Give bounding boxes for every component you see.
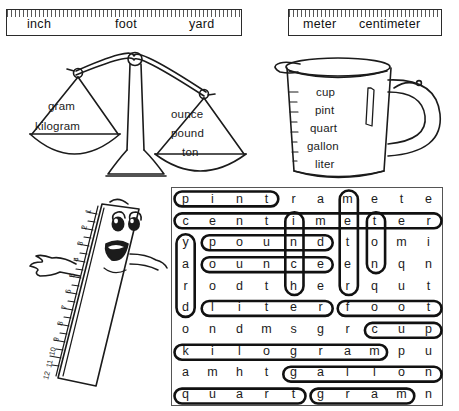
grid-cell-r3-c3[interactable]: n	[253, 253, 280, 275]
grid-cell-r2-c2[interactable]: o	[226, 231, 253, 253]
grid-cell-r5-c1[interactable]: l	[199, 297, 226, 319]
grid-cell-r7-c5[interactable]: r	[307, 340, 334, 362]
grid-cell-r5-c4[interactable]: e	[280, 297, 307, 319]
grid-cell-r8-c4[interactable]: g	[280, 362, 307, 384]
grid-cell-r0-c2[interactable]: n	[226, 188, 253, 210]
grid-cell-r3-c8[interactable]: q	[388, 253, 415, 275]
grid-cell-r6-c6[interactable]: r	[334, 318, 361, 340]
grid-cell-r6-c5[interactable]: g	[307, 318, 334, 340]
grid-cell-r8-c3[interactable]: t	[253, 362, 280, 384]
grid-cell-r6-c3[interactable]: m	[253, 318, 280, 340]
grid-cell-r6-c8[interactable]: u	[388, 318, 415, 340]
grid-cell-r1-c9[interactable]: r	[415, 210, 442, 232]
grid-cell-r1-c5[interactable]: m	[307, 210, 334, 232]
grid-cell-r8-c2[interactable]: h	[226, 362, 253, 384]
grid-cell-r3-c4[interactable]: c	[280, 253, 307, 275]
grid-cell-r4-c8[interactable]: u	[388, 275, 415, 297]
grid-cell-r8-c5[interactable]: a	[307, 362, 334, 384]
grid-cell-r9-c5[interactable]: g	[307, 383, 334, 405]
grid-cell-r9-c6[interactable]: r	[334, 383, 361, 405]
grid-cell-r7-c3[interactable]: o	[253, 340, 280, 362]
grid-cell-r6-c1[interactable]: n	[199, 318, 226, 340]
grid-cell-r2-c0[interactable]: y	[172, 231, 199, 253]
grid-cell-r7-c6[interactable]: a	[334, 340, 361, 362]
grid-cell-r9-c0[interactable]: q	[172, 383, 199, 405]
grid-cell-r0-c3[interactable]: t	[253, 188, 280, 210]
grid-cell-r2-c8[interactable]: m	[388, 231, 415, 253]
grid-cell-r3-c1[interactable]: o	[199, 253, 226, 275]
grid-cell-r9-c1[interactable]: u	[199, 383, 226, 405]
grid-cell-r2-c6[interactable]: t	[334, 231, 361, 253]
grid-cell-r5-c9[interactable]: t	[415, 297, 442, 319]
grid-cell-r0-c1[interactable]: i	[199, 188, 226, 210]
grid-cell-r8-c0[interactable]: a	[172, 362, 199, 384]
grid-cell-r2-c9[interactable]: i	[415, 231, 442, 253]
grid-cell-r3-c2[interactable]: u	[226, 253, 253, 275]
grid-cell-r8-c8[interactable]: o	[388, 362, 415, 384]
grid-cell-r7-c4[interactable]: g	[280, 340, 307, 362]
grid-cell-r4-c2[interactable]: d	[226, 275, 253, 297]
grid-cell-r6-c2[interactable]: d	[226, 318, 253, 340]
grid-cell-r0-c8[interactable]: t	[388, 188, 415, 210]
grid-cell-r1-c1[interactable]: e	[199, 210, 226, 232]
grid-cell-r3-c6[interactable]: e	[334, 253, 361, 275]
word-search-grid[interactable]: pintrametecentimeterypoundtomiaounceenqn…	[171, 187, 443, 406]
grid-cell-r2-c7[interactable]: o	[361, 231, 388, 253]
grid-cell-r5-c8[interactable]: o	[388, 297, 415, 319]
grid-cell-r6-c4[interactable]: s	[280, 318, 307, 340]
grid-cell-r4-c9[interactable]: t	[415, 275, 442, 297]
grid-cell-r7-c8[interactable]: p	[388, 340, 415, 362]
grid-cell-r6-c9[interactable]: p	[415, 318, 442, 340]
grid-cell-r4-c0[interactable]: r	[172, 275, 199, 297]
grid-cell-r1-c3[interactable]: t	[253, 210, 280, 232]
grid-cell-r0-c4[interactable]: r	[280, 188, 307, 210]
grid-cell-r1-c7[interactable]: t	[361, 210, 388, 232]
grid-cell-r2-c1[interactable]: p	[199, 231, 226, 253]
grid-cell-r1-c2[interactable]: n	[226, 210, 253, 232]
grid-cell-r5-c2[interactable]: i	[226, 297, 253, 319]
grid-cell-r4-c6[interactable]: r	[334, 275, 361, 297]
grid-cell-r5-c0[interactable]: d	[172, 297, 199, 319]
grid-cell-r5-c6[interactable]: f	[334, 297, 361, 319]
grid-cell-r8-c6[interactable]: l	[334, 362, 361, 384]
grid-cell-r1-c4[interactable]: i	[280, 210, 307, 232]
grid-cell-r4-c3[interactable]: t	[253, 275, 280, 297]
grid-cell-r4-c5[interactable]: e	[307, 275, 334, 297]
grid-cell-r5-c3[interactable]: t	[253, 297, 280, 319]
grid-cell-r7-c1[interactable]: i	[199, 340, 226, 362]
grid-cell-r3-c7[interactable]: n	[361, 253, 388, 275]
grid-cell-r2-c4[interactable]: n	[280, 231, 307, 253]
grid-cell-r8-c1[interactable]: m	[199, 362, 226, 384]
grid-cell-r9-c3[interactable]: r	[253, 383, 280, 405]
grid-cell-r3-c9[interactable]: n	[415, 253, 442, 275]
grid-cell-r5-c5[interactable]: r	[307, 297, 334, 319]
grid-cell-r9-c9[interactable]: n	[415, 383, 442, 405]
grid-cell-r0-c5[interactable]: a	[307, 188, 334, 210]
grid-cell-r4-c7[interactable]: q	[361, 275, 388, 297]
grid-cell-r9-c8[interactable]: m	[388, 383, 415, 405]
grid-cell-r4-c1[interactable]: o	[199, 275, 226, 297]
grid-cell-r7-c9[interactable]: u	[415, 340, 442, 362]
grid-cell-r4-c4[interactable]: h	[280, 275, 307, 297]
grid-cell-r3-c5[interactable]: e	[307, 253, 334, 275]
grid-cell-r0-c9[interactable]: e	[415, 188, 442, 210]
grid-cell-r9-c7[interactable]: a	[361, 383, 388, 405]
grid-cell-r7-c7[interactable]: m	[361, 340, 388, 362]
grid-cell-r8-c9[interactable]: n	[415, 362, 442, 384]
grid-cell-r9-c2[interactable]: a	[226, 383, 253, 405]
grid-cell-r0-c6[interactable]: m	[334, 188, 361, 210]
grid-cell-r1-c0[interactable]: c	[172, 210, 199, 232]
grid-cell-r2-c5[interactable]: d	[307, 231, 334, 253]
grid-cell-r7-c0[interactable]: k	[172, 340, 199, 362]
grid-cell-r7-c2[interactable]: l	[226, 340, 253, 362]
grid-cell-r1-c8[interactable]: e	[388, 210, 415, 232]
grid-cell-r1-c6[interactable]: e	[334, 210, 361, 232]
grid-cell-r8-c7[interactable]: l	[361, 362, 388, 384]
grid-cell-r5-c7[interactable]: o	[361, 297, 388, 319]
grid-cell-r0-c7[interactable]: e	[361, 188, 388, 210]
grid-cell-r9-c4[interactable]: t	[280, 383, 307, 405]
grid-cell-r6-c7[interactable]: c	[361, 318, 388, 340]
grid-cell-r3-c0[interactable]: a	[172, 253, 199, 275]
grid-cell-r6-c0[interactable]: o	[172, 318, 199, 340]
grid-cell-r0-c0[interactable]: p	[172, 188, 199, 210]
